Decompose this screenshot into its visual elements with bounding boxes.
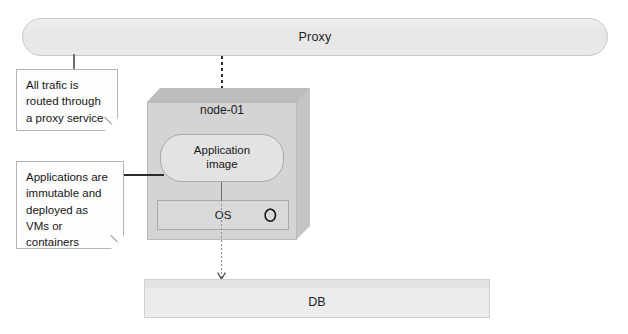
database-label: DB bbox=[308, 289, 325, 309]
os-to-db-connector bbox=[221, 200, 222, 278]
note-fold-corner-icon bbox=[110, 235, 123, 248]
note-applications-text: Applications are immutable and deployed … bbox=[26, 171, 108, 248]
application-image-label-line1: Application bbox=[194, 144, 250, 158]
power-ring-icon bbox=[263, 207, 278, 223]
node-box-top-face bbox=[147, 88, 310, 102]
note-applications[interactable]: Applications are immutable and deployed … bbox=[16, 161, 124, 249]
diagram-canvas: Proxy node-01 Application image OS DB Al… bbox=[0, 0, 628, 334]
proxy-label: Proxy bbox=[299, 30, 332, 44]
application-image-label-line2: image bbox=[206, 158, 237, 172]
os-label: OS bbox=[215, 209, 232, 221]
node-box-side-face bbox=[296, 88, 310, 240]
proxy-node[interactable]: Proxy bbox=[22, 18, 608, 56]
applications-note-leader-line bbox=[124, 174, 164, 176]
note-traffic-text: All trafic is routed through a proxy ser… bbox=[26, 79, 103, 124]
proxy-note-leader-line bbox=[73, 54, 75, 70]
node-label: node-01 bbox=[147, 103, 297, 117]
application-image-node[interactable]: Application image bbox=[160, 134, 284, 182]
note-traffic[interactable]: All trafic is routed through a proxy ser… bbox=[16, 69, 118, 131]
database-node[interactable]: DB bbox=[144, 279, 490, 318]
app-to-os-connector bbox=[221, 182, 222, 200]
note-fold-corner-icon bbox=[104, 117, 117, 130]
